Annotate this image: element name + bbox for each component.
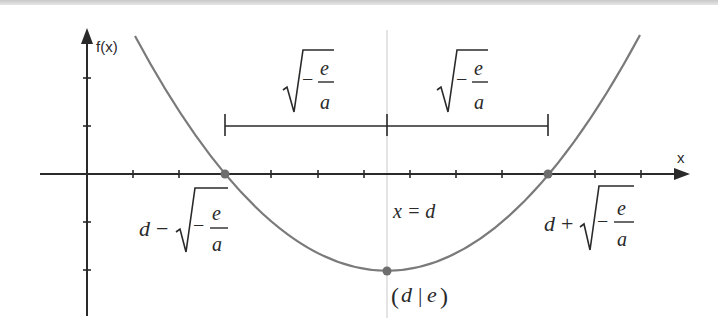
svg-text:d: d	[139, 216, 151, 241]
svg-text:e: e	[617, 197, 626, 219]
svg-text:+: +	[561, 211, 573, 236]
svg-text:−: −	[456, 68, 467, 90]
svg-text:−: −	[193, 214, 204, 236]
svg-text:a: a	[474, 91, 484, 113]
svg-text:e: e	[320, 57, 329, 79]
right-root-point	[544, 170, 553, 179]
x-axis-label: x	[677, 149, 685, 166]
svg-text:−: −	[597, 210, 608, 232]
svg-text:−: −	[156, 216, 168, 241]
svg-text:): )	[440, 283, 448, 309]
svg-text:−: −	[302, 68, 313, 90]
left-root-label: d − − e a	[139, 188, 228, 255]
svg-text:d: d	[544, 211, 556, 236]
x-axis: x	[40, 149, 690, 180]
svg-text:a: a	[320, 91, 330, 113]
y-axis-arrow-icon	[81, 28, 93, 44]
svg-text:d: d	[401, 282, 413, 307]
svg-text:e: e	[474, 57, 483, 79]
bracket-label-right: − e a	[437, 50, 488, 113]
svg-text:a: a	[617, 228, 627, 250]
parabola-diagram: x f(x) − e a − e a d	[0, 0, 718, 334]
vertex-label: ( d | e )	[391, 282, 448, 309]
bracket-label-left: − e a	[283, 50, 334, 113]
svg-text:|: |	[418, 282, 422, 307]
distance-bracket	[225, 114, 548, 136]
svg-text:e: e	[212, 202, 221, 224]
svg-text:e: e	[427, 282, 437, 307]
x-axis-arrow-icon	[674, 168, 690, 180]
symmetry-axis-label: x = d	[392, 200, 436, 222]
right-root-label: d + − e a	[544, 186, 634, 250]
left-root-point	[221, 170, 230, 179]
y-axis: f(x)	[81, 28, 118, 316]
y-axis-label: f(x)	[96, 38, 118, 55]
svg-text:(: (	[391, 283, 399, 309]
vertex-point	[383, 267, 392, 276]
svg-text:a: a	[212, 233, 222, 255]
